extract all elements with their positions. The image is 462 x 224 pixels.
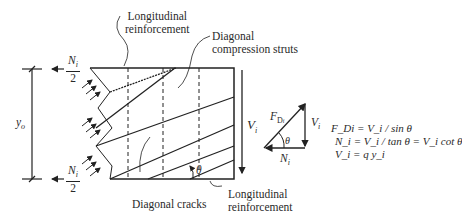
equation-fd: F_Di = V_i / sin θ: [331, 122, 412, 135]
label-force-top: Ni 2: [66, 54, 80, 85]
label-shear-vi: Vi: [247, 118, 257, 137]
beam-outline: [90, 68, 234, 179]
label-angle: θ: [196, 164, 202, 177]
label-dimension-yo: yo: [16, 116, 25, 133]
diagonal-cracks: [96, 68, 234, 179]
label-force-bottom: Ni 2: [66, 164, 80, 195]
triangle-label-fd: FDi: [270, 110, 284, 128]
label-longitudinal-reinforcement-top: Longitudinalreinforcement: [125, 10, 190, 36]
equation-ni: N_i = V_i / tan θ = V_i cot θ: [335, 135, 462, 148]
label-diagonal-compression-struts: Diagonalcompression struts: [212, 30, 298, 56]
equation-vi: V_i = q y_i: [335, 148, 385, 161]
triangle-label-ni: Ni: [280, 152, 290, 169]
label-diagonal-cracks: Diagonal cracks: [132, 198, 206, 211]
strut-arrows: [82, 80, 100, 176]
label-longitudinal-reinforcement-bottom: Longitudinalreinforcement: [228, 188, 293, 214]
triangle-label-angle: θ: [285, 134, 290, 147]
triangle-label-vi: Vi: [311, 116, 320, 133]
